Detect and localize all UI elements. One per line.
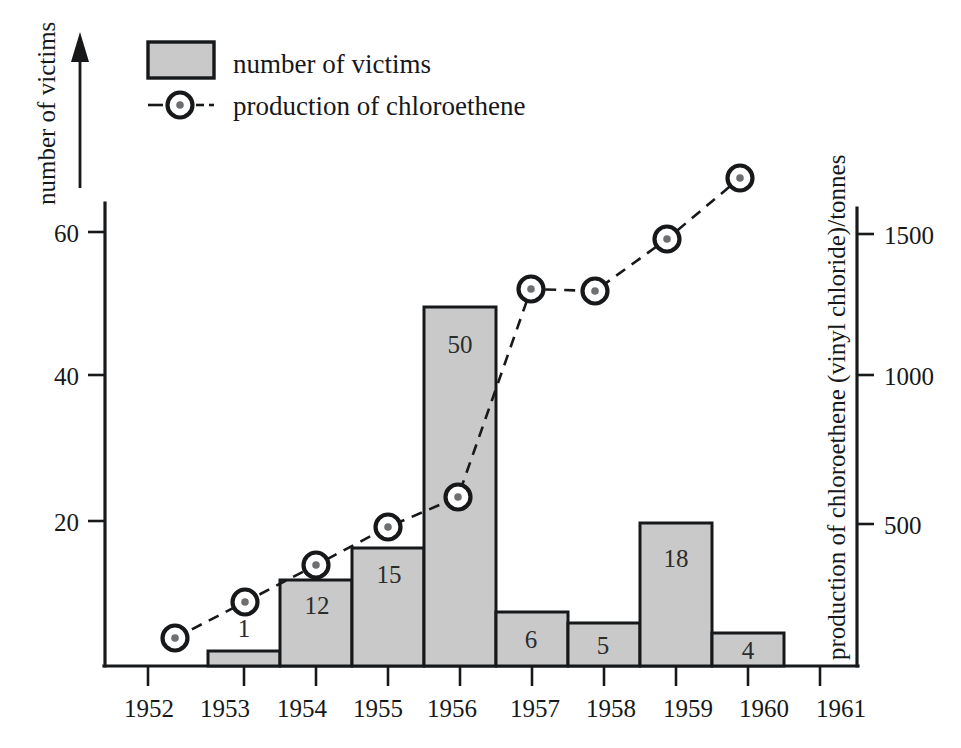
legend-label-production: production of chloroethene: [233, 91, 525, 121]
bar-1953: [208, 651, 280, 666]
year-label-1956: 1956: [427, 695, 477, 722]
bar-label-1958: 5: [597, 632, 610, 659]
legend-swatch-victims: [148, 42, 214, 78]
production-marker-1955: [376, 515, 401, 540]
production-marker-1959: [655, 227, 680, 252]
legend-marker-production: [148, 93, 214, 118]
bar-label-1960: 4: [742, 637, 755, 664]
year-label-1955: 1955: [353, 695, 403, 722]
right-tick-label-1500: 1500: [884, 222, 934, 249]
year-label-1960: 1960: [739, 695, 789, 722]
year-label-1954: 1954: [277, 695, 328, 722]
bar-series: [208, 307, 784, 666]
bar-label-1953: 1: [238, 615, 251, 642]
year-label-1957: 1957: [510, 695, 560, 722]
production-marker-1958: [583, 279, 608, 304]
chart-figure: number of victims production of chloroet…: [0, 0, 961, 748]
year-label-1961: 1961: [816, 695, 866, 722]
left-tick-label-20: 20: [54, 509, 79, 536]
x-axis-labels: 1952 1953 1954 1955 1956 1957 1958 1959 …: [124, 695, 866, 722]
bar-label-1957: 6: [525, 626, 538, 653]
x-axis-ticks: [148, 666, 820, 686]
bar-label-1956: 50: [448, 331, 473, 358]
legend-label-victims: number of victims: [233, 49, 431, 79]
production-marker-1953: [233, 590, 258, 615]
production-marker-1952: [163, 626, 188, 651]
production-marker-1957: [519, 277, 544, 302]
year-label-1959: 1959: [663, 695, 713, 722]
legend: number of victims production of chloroet…: [148, 42, 525, 121]
production-marker-1960: [728, 166, 753, 191]
right-tick-label-1000: 1000: [884, 363, 934, 390]
right-axis-ticks: 1500 1000 500: [857, 222, 934, 539]
left-axis-title-line1: number of victims: [33, 22, 60, 205]
bar-label-1955: 15: [377, 561, 402, 588]
left-tick-label-60: 60: [54, 220, 79, 247]
year-label-1952: 1952: [124, 695, 174, 722]
year-label-1958: 1958: [586, 695, 636, 722]
left-axis-title-group: number of victims: [33, 22, 89, 205]
up-arrow-icon: [71, 32, 89, 62]
year-label-1953: 1953: [200, 695, 250, 722]
chart-canvas: number of victims production of chloroet…: [0, 0, 961, 748]
right-axis-title: production of chloroethene (vinyl chlori…: [823, 155, 851, 660]
bar-label-1959: 18: [664, 545, 689, 572]
production-marker-1954: [304, 553, 329, 578]
left-tick-label-40: 40: [54, 363, 79, 390]
left-axis-ticks: 60 40 20: [54, 220, 105, 536]
production-marker-1956: [446, 485, 471, 510]
bar-label-1954: 12: [305, 592, 330, 619]
right-tick-label-500: 500: [884, 512, 922, 539]
